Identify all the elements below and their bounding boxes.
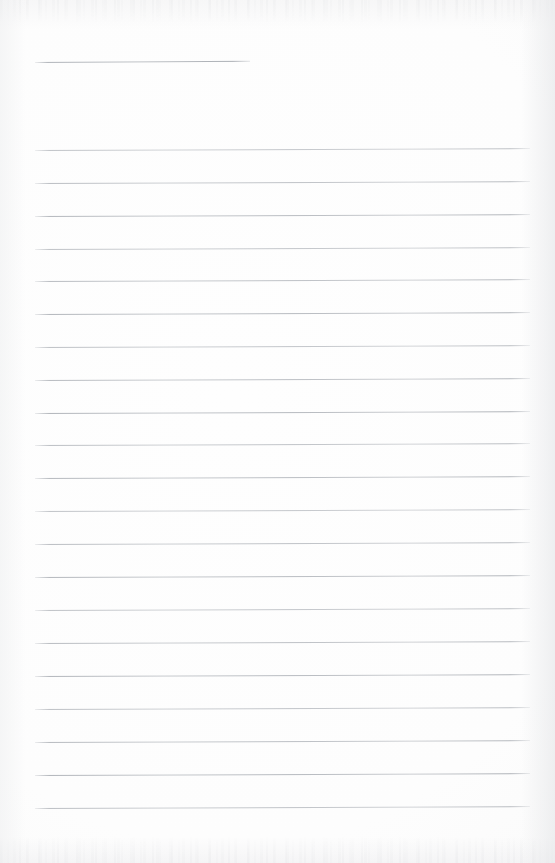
rule-line bbox=[35, 312, 530, 315]
rule-line bbox=[35, 707, 530, 710]
rule-line bbox=[35, 806, 530, 809]
rule-line bbox=[35, 443, 530, 446]
rule-line bbox=[35, 476, 530, 479]
rule-line bbox=[35, 279, 530, 282]
rule-line bbox=[35, 542, 530, 545]
rule-line bbox=[35, 148, 530, 151]
rule-line bbox=[35, 345, 530, 348]
rule-line bbox=[35, 740, 530, 743]
rule-line bbox=[35, 608, 530, 611]
rule-line bbox=[35, 509, 530, 512]
ruled-lines bbox=[0, 0, 555, 863]
rule-line bbox=[35, 247, 530, 250]
rule-line bbox=[35, 674, 530, 677]
rule-line bbox=[35, 378, 530, 381]
rule-line bbox=[35, 773, 530, 776]
rule-line bbox=[35, 575, 530, 578]
rule-line bbox=[35, 641, 530, 644]
rule-line bbox=[35, 214, 530, 217]
scanned-page bbox=[0, 0, 555, 863]
rule-line bbox=[35, 411, 530, 414]
rule-line bbox=[35, 181, 530, 184]
